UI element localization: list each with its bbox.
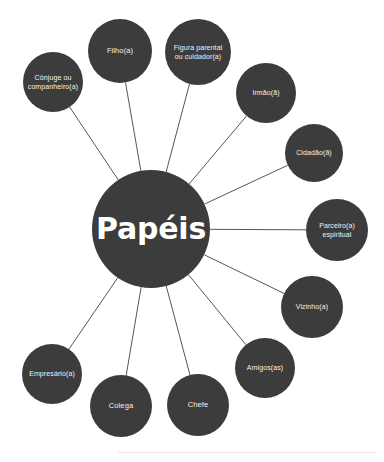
node-label-figura-parental: Figura parental ou cuidador(a) [171,43,226,61]
node-irmao[interactable]: Irmão(ã) [236,63,296,123]
node-layer: Papéis Cônjuge ou companheiro(a)Filho(a)… [0,0,384,462]
node-colega[interactable]: Colega [90,375,152,437]
node-parceiro-espiritual[interactable]: Parceiro(a) espiritual [306,199,368,261]
node-conjuge[interactable]: Cônjuge ou companheiro(a) [23,52,83,112]
node-vizinho[interactable]: Vizinho(a) [281,276,343,338]
node-label-amigos: Amigos(as) [244,363,286,372]
node-filho[interactable]: Filho(a) [88,19,152,83]
node-chefe[interactable]: Chefe [167,374,229,436]
node-label-colega: Colega [106,401,136,411]
center-node-papeis[interactable]: Papéis [92,170,210,288]
node-label-parceiro-espiritual: Parceiro(a) espiritual [316,221,358,239]
node-empresario[interactable]: Empresário(a) [22,344,82,404]
node-label-vizinho: Vizinho(a) [293,302,331,311]
node-label-filho: Filho(a) [104,46,136,56]
node-label-empresario: Empresário(a) [26,369,78,378]
footer-divider [118,452,376,453]
roles-mind-map-diagram: Papéis Cônjuge ou companheiro(a)Filho(a)… [0,0,384,462]
node-label-chefe: Chefe [185,400,212,410]
node-figura-parental[interactable]: Figura parental ou cuidador(a) [165,19,231,85]
node-amigos[interactable]: Amigos(as) [235,338,295,398]
node-label-conjuge: Cônjuge ou companheiro(a) [25,73,81,91]
node-cidadao[interactable]: Cidadão(ã) [285,124,343,182]
node-label-cidadao: Cidadão(ã) [293,148,335,157]
node-label-irmao: Irmão(ã) [249,88,282,97]
center-node-label: Papéis [93,214,209,244]
